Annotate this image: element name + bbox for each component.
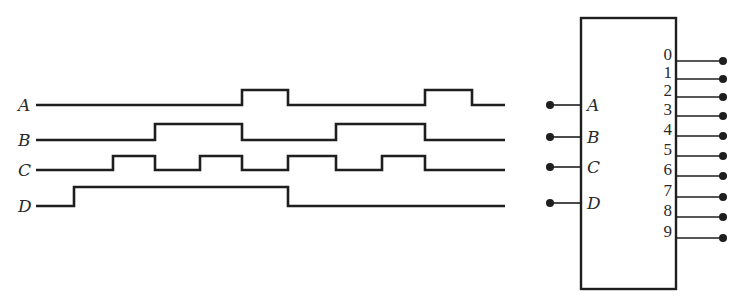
input-pin-b: B xyxy=(546,127,600,147)
output-terminal-dot xyxy=(719,132,727,140)
output-terminal-dot xyxy=(719,75,727,83)
output-label: 4 xyxy=(664,120,673,139)
output-label: 1 xyxy=(664,63,673,82)
input-terminal-dot xyxy=(546,133,554,141)
decoder-box xyxy=(581,18,676,289)
input-label: C xyxy=(587,157,600,177)
decoder-block: ABCD0123456789 xyxy=(546,18,727,289)
input-label: A xyxy=(585,95,599,115)
output-terminal-dot xyxy=(719,152,727,160)
waveform-label-d: D xyxy=(17,196,32,216)
waveform-a xyxy=(36,90,505,105)
output-label: 0 xyxy=(664,45,673,64)
output-label: 2 xyxy=(664,81,673,100)
output-terminal-dot xyxy=(719,112,727,120)
waveform-label-c: C xyxy=(18,160,31,180)
input-terminal-dot xyxy=(546,199,554,207)
output-label: 5 xyxy=(664,140,673,159)
input-pin-a: A xyxy=(546,95,599,115)
input-terminal-dot xyxy=(546,163,554,171)
output-terminal-dot xyxy=(719,193,727,201)
output-terminal-dot xyxy=(719,213,727,221)
waveform-c xyxy=(36,156,505,170)
waveform-b xyxy=(36,124,505,140)
output-label: 8 xyxy=(664,201,673,220)
output-label: 9 xyxy=(664,222,673,241)
input-pin-d: D xyxy=(546,193,601,213)
input-pin-c: C xyxy=(546,157,600,177)
waveform-group: ABCD xyxy=(16,90,505,216)
output-label: 3 xyxy=(664,100,673,119)
output-terminal-dot xyxy=(719,172,727,180)
waveform-label-a: A xyxy=(16,95,30,115)
output-terminal-dot xyxy=(719,57,727,65)
waveform-d xyxy=(36,187,505,206)
waveform-label-b: B xyxy=(17,130,31,150)
timing-diagram-canvas: ABCD ABCD0123456789 xyxy=(0,0,750,302)
input-label: D xyxy=(586,193,601,213)
input-terminal-dot xyxy=(546,101,554,109)
input-label: B xyxy=(586,127,600,147)
output-terminal-dot xyxy=(719,234,727,242)
output-terminal-dot xyxy=(719,93,727,101)
output-label: 7 xyxy=(664,181,673,200)
output-label: 6 xyxy=(664,160,673,179)
